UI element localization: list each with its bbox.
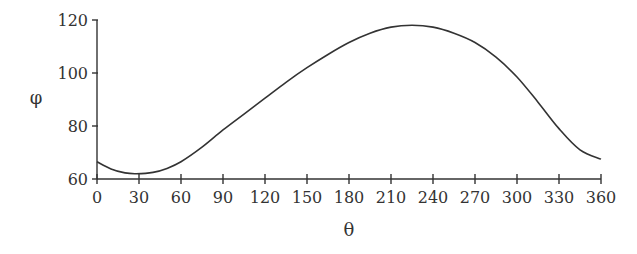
x-tick-label: 330 — [544, 188, 575, 207]
y-tick-label: 60 — [68, 170, 88, 189]
x-tick-label: 240 — [418, 188, 449, 207]
y-tick-label: 120 — [57, 11, 88, 30]
x-tick-label: 60 — [171, 188, 191, 207]
x-tick-label: 150 — [292, 188, 323, 207]
series-line — [97, 25, 601, 173]
line-chart: 6080100120 03060901201501802102402703003… — [0, 0, 637, 254]
x-axis: 0306090120150180210240270300330360 — [92, 174, 616, 207]
x-tick-label: 30 — [129, 188, 149, 207]
y-axis: 6080100120 — [57, 11, 98, 189]
x-tick-label: 270 — [460, 188, 491, 207]
x-tick-label: 300 — [502, 188, 533, 207]
x-tick-label: 0 — [92, 188, 102, 207]
x-tick-label: 90 — [213, 188, 233, 207]
x-axis-label: θ — [344, 219, 355, 240]
y-axis-label: φ — [30, 87, 43, 108]
x-tick-label: 360 — [586, 188, 617, 207]
y-tick-label: 100 — [57, 64, 88, 83]
x-tick-label: 210 — [376, 188, 407, 207]
x-tick-label: 180 — [334, 188, 365, 207]
y-tick-label: 80 — [68, 117, 88, 136]
x-tick-label: 120 — [250, 188, 281, 207]
